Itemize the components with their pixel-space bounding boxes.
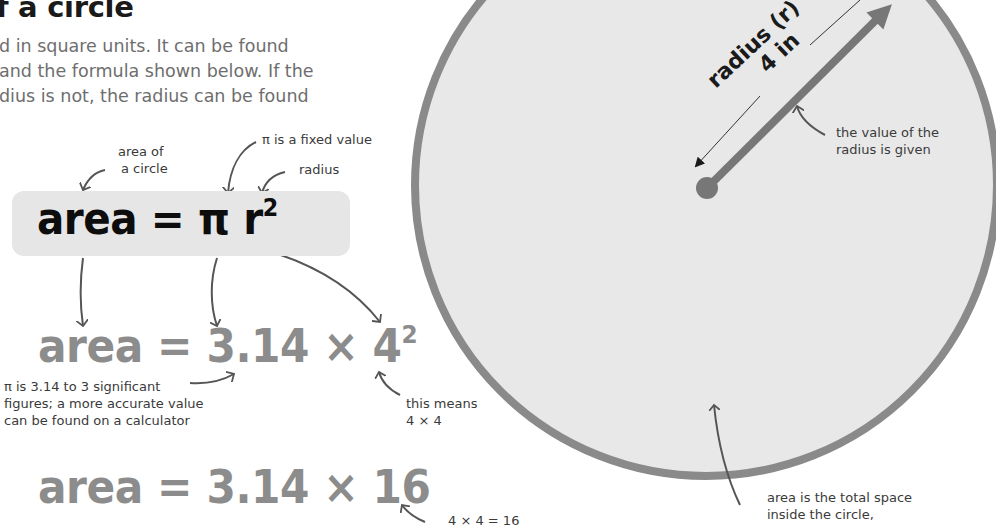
center-dot <box>696 177 718 199</box>
label-pi-sig-figs: π is 3.14 to 3 significant figures; a mo… <box>4 378 203 429</box>
intro-line: d in square units. It can be found <box>0 34 314 59</box>
formula-step1-exponent: 2 <box>402 320 418 349</box>
label-area-total: area is the total space inside the circl… <box>767 489 912 523</box>
formula-step2: area = 3.14 × 16 <box>38 460 430 514</box>
label-line: a circle <box>118 160 168 177</box>
intro-line: and the formula shown below. If the <box>0 59 314 84</box>
label-line: radius is given <box>836 141 939 158</box>
page-title: f a circle <box>0 0 134 24</box>
formula-step2-text: area = 3.14 × 16 <box>38 460 430 514</box>
intro-text: d in square units. It can be found and t… <box>0 34 314 109</box>
formula-main: area = π r2 <box>37 193 278 244</box>
label-line: area is the total space <box>767 489 912 506</box>
label-radius: radius <box>299 161 339 178</box>
label-line: 4 × 4 <box>406 412 478 429</box>
label-pi-fixed: π is a fixed value <box>262 131 372 148</box>
label-line: figures; a more accurate value <box>4 395 203 412</box>
formula-step1-text: area = 3.14 × 4 <box>38 319 402 373</box>
label-radius-given: the value of the radius is given <box>836 124 939 158</box>
label-area-of-circle: area of a circle <box>118 143 168 177</box>
formula-main-exponent: 2 <box>263 194 278 222</box>
label-line: π is 3.14 to 3 significant <box>4 378 203 395</box>
label-four-by-four: 4 × 4 = 16 <box>448 512 519 529</box>
intro-line: dius is not, the radius can be found <box>0 84 314 109</box>
label-line: can be found on a calculator <box>4 412 203 429</box>
label-line: this means <box>406 395 478 412</box>
label-line: area of <box>118 143 168 160</box>
label-line: inside the circle, <box>767 506 912 523</box>
formula-step1: area = 3.14 × 42 <box>38 319 417 373</box>
label-line: the value of the <box>836 124 939 141</box>
label-this-means: this means 4 × 4 <box>406 395 478 429</box>
formula-main-text: area = π r <box>37 193 263 244</box>
